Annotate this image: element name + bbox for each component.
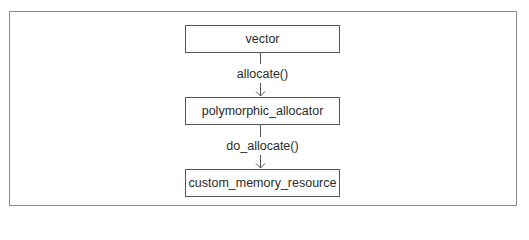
edge-line-1 (260, 53, 261, 64)
edge-label-do-allocate: do_allocate() (185, 139, 340, 153)
edge-label-allocate: allocate() (185, 67, 340, 81)
node-polymorphic-allocator: polymorphic_allocator (185, 97, 340, 125)
node-custom-memory-resource: custom_memory_resource (185, 169, 340, 197)
arrow-down-icon (254, 155, 267, 169)
node-label: custom_memory_resource (189, 176, 337, 190)
node-label: vector (245, 32, 279, 46)
arrow-down-icon (254, 83, 267, 97)
node-vector: vector (185, 25, 340, 53)
edge-line-2 (260, 125, 261, 137)
node-label: polymorphic_allocator (202, 104, 324, 118)
